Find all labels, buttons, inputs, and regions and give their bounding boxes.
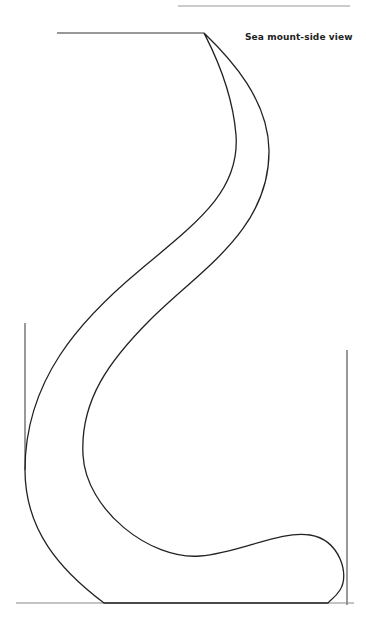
seamount-diagram [0, 0, 366, 640]
seamount-outline [25, 33, 344, 603]
